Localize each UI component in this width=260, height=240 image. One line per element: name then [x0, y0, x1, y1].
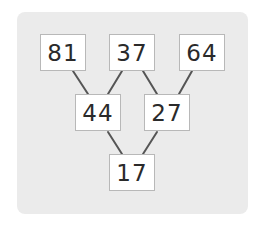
node-value: 44: [82, 100, 113, 126]
edge-37-44: [108, 71, 122, 94]
node-top-left: 81: [40, 34, 86, 71]
edge-37-27: [143, 71, 157, 94]
node-top-right: 64: [179, 34, 225, 71]
node-value: 27: [151, 100, 182, 126]
edge-44-17: [108, 132, 122, 154]
node-top-middle: 37: [109, 34, 155, 71]
edge-27-17: [143, 132, 157, 154]
node-value: 81: [47, 40, 78, 66]
edge-81-44: [73, 71, 88, 94]
node-middle-left: 44: [75, 94, 121, 131]
node-middle-right: 27: [144, 94, 190, 131]
node-value: 64: [186, 40, 217, 66]
node-value: 17: [116, 160, 147, 186]
edge-64-27: [179, 71, 192, 94]
node-value: 37: [116, 40, 147, 66]
node-bottom: 17: [109, 154, 155, 191]
